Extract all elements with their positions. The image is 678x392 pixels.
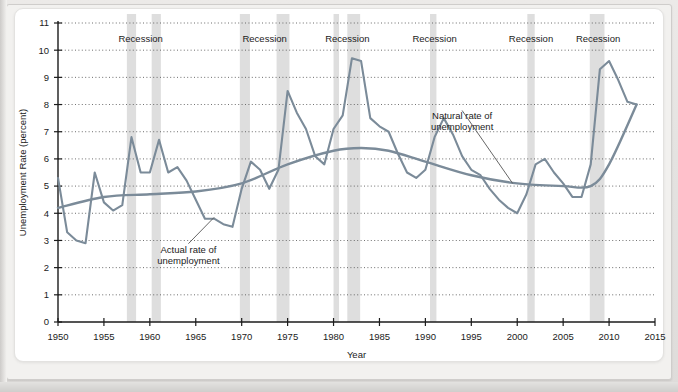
x-tick-label: 1965 [185,331,206,342]
x-tick-label: 1995 [461,331,482,342]
chart-svg: 0123456789101119501955196019651970197519… [0,0,678,392]
actual-rate-annotation-line1: Actual rate of [160,244,216,255]
y-axis-title: Unemployment Rate (percent) [17,109,28,236]
recession-band [430,14,436,322]
recession-label: Recession [242,33,286,44]
unemployment-line-chart: 0123456789101119501955196019651970197519… [0,0,678,392]
recession-label: Recession [412,33,456,44]
y-tick-label: 2 [44,262,49,273]
y-tick-label: 6 [44,153,49,164]
x-tick-label: 1955 [93,331,114,342]
y-tick-label: 9 [44,72,49,83]
y-tick-label: 3 [44,235,49,246]
y-tick-label: 0 [44,316,49,327]
x-tick-label: 1980 [323,331,344,342]
y-tick-label: 7 [44,126,49,137]
x-tick-label: 2000 [507,331,528,342]
x-tick-label: 1950 [47,331,68,342]
x-tick-label: 1960 [139,331,160,342]
x-tick-label: 2015 [644,331,665,342]
actual-rate-annotation-leader-line [188,217,214,243]
recession-label: Recession [118,33,162,44]
screenshot-page: 0123456789101119501955196019651970197519… [0,0,678,392]
x-tick-label: 2005 [553,331,574,342]
natural-rate-annotation-line1: Natural rate of [432,110,493,121]
x-tick-label: 2010 [599,331,620,342]
recession-band [152,14,161,322]
actual-rate-annotation-line2: unemployment [157,255,220,266]
recession-label: Recession [325,33,369,44]
y-tick-label: 8 [44,99,49,110]
recession-band [590,14,605,322]
recession-band [334,14,340,322]
x-tick-label: 1990 [415,331,436,342]
y-tick-label: 5 [44,180,49,191]
data-series-group [58,58,637,243]
natural-rate-annotation-line2: unemployment [431,121,494,132]
y-tick-label: 10 [38,45,49,56]
series-line-natural [58,105,637,208]
y-tick-label: 11 [39,17,49,28]
x-tick-label: 1975 [277,331,298,342]
recession-label: Recession [576,33,620,44]
x-tick-label: 1970 [231,331,252,342]
x-tick-label: 1985 [369,331,390,342]
recession-label: Recession [509,33,553,44]
recession-bands-group [127,14,605,322]
series-line-actual [58,58,637,243]
x-axis-title: Year [347,349,366,360]
y-tick-label: 4 [44,208,49,219]
y-tick-label: 1 [44,289,49,300]
